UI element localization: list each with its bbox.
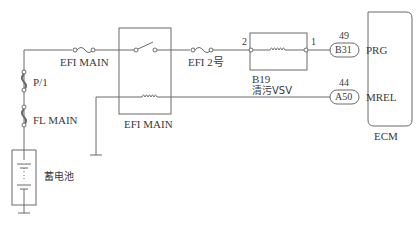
fl-main-fuse-icon: [22, 105, 26, 127]
battery-icon: [17, 164, 31, 213]
fl-main-fuse-label: FL MAIN: [33, 115, 78, 126]
efi-main-fuse-icon: [73, 48, 95, 53]
efi2-fuse-icon: [191, 48, 213, 53]
battery-label: 蓄电池: [44, 172, 74, 182]
b31-connector-code: B31: [335, 45, 352, 55]
relay-coil-icon: [142, 95, 157, 97]
efi-main-fuse-label: EFI MAIN: [60, 57, 109, 68]
vsv-coil-icon: [249, 48, 308, 52]
mrel-signal-label: MREL: [366, 92, 397, 103]
p1-fuse-icon: [22, 70, 26, 92]
efi2-fuse-label: EFI 2号: [188, 57, 224, 68]
efi-main-relay-label: EFI MAIN: [124, 119, 173, 130]
vsv-id: B19: [252, 74, 270, 85]
vsv-label: 清污VSV: [252, 86, 292, 96]
vsv-box: [250, 33, 307, 70]
relay-switch-icon: [134, 42, 157, 52]
ecm-box: [368, 12, 412, 126]
a50-connector-code: A50: [335, 92, 352, 102]
prg-signal-label: PRG: [366, 45, 387, 56]
a50-pin-number: 44: [339, 78, 349, 88]
efi-main-relay-box: [119, 28, 171, 114]
b31-pin-number: 49: [339, 31, 349, 41]
vsv-pin-1: 1: [311, 37, 316, 47]
ecm-label: ECM: [374, 131, 398, 142]
vsv-pin-2: 2: [242, 37, 247, 47]
p1-fuse-label: P/1: [33, 77, 48, 88]
